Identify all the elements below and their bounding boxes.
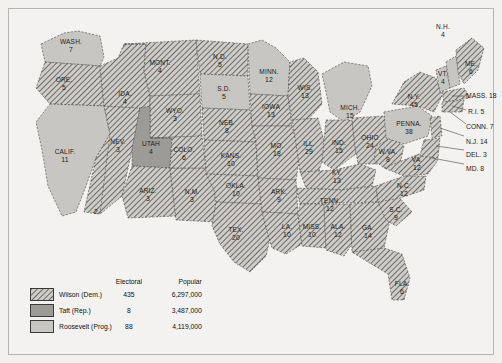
- legend-header-party: [59, 276, 112, 286]
- legend-header-electoral: Electoral: [112, 276, 146, 286]
- callout-label-conn: CONN. 7: [466, 123, 494, 130]
- state-mo: [252, 126, 300, 180]
- solid-light-swatch-icon: [30, 320, 54, 333]
- map-legend: Electoral Popular Wilson (Dem.) 435 6,29…: [30, 276, 202, 334]
- legend-row-taft: Taft (Rep.) 8 3,487,000: [30, 302, 202, 318]
- state-fla: [352, 248, 410, 300]
- legend-electoral-taft: 8: [112, 302, 146, 318]
- state-ind: [322, 120, 356, 170]
- callout-label-mass: MASS. 18: [466, 92, 497, 99]
- state-nc: [376, 176, 426, 202]
- callout-label-ri: R.I. 5: [468, 108, 484, 115]
- state-wyo: [150, 94, 202, 138]
- state-ark: [258, 178, 298, 214]
- hatch-swatch-icon: [30, 288, 54, 301]
- state-del-md: [420, 138, 440, 158]
- legend-row-wilson: Wilson (Dem.) 435 6,297,000: [30, 286, 202, 302]
- legend-swatch-taft-cell: [30, 302, 59, 318]
- state-wash: [41, 31, 104, 66]
- state-shapes: [36, 31, 484, 300]
- state-neb: [202, 108, 256, 142]
- legend-label-taft: Taft (Rep.): [59, 302, 112, 318]
- callout-label-del: DEL. 3: [466, 151, 487, 158]
- state-iowa: [250, 94, 292, 126]
- state-ala: [324, 204, 352, 256]
- legend-row-roosevelt: Roosevelt (Prog.) 88 4,119,000: [30, 318, 202, 334]
- legend-swatch-wilson-cell: [30, 286, 59, 302]
- legend-swatch-roosevelt-cell: [30, 318, 59, 334]
- legend-electoral-roosevelt: 88: [112, 318, 146, 334]
- legend-label-roosevelt: Roosevelt (Prog.): [59, 318, 112, 334]
- state-nj: [430, 116, 442, 138]
- state-sd: [200, 74, 250, 110]
- legend-popular-wilson: 6,297,000: [146, 286, 202, 302]
- state-kans: [204, 140, 258, 176]
- callout-label-md: MD. 8: [466, 165, 484, 172]
- state-minn: [248, 40, 290, 96]
- legend-header-swatch: [30, 276, 59, 286]
- state-ariz: [122, 166, 176, 218]
- legend-label-wilson: Wilson (Dem.): [59, 286, 112, 302]
- state-mich: [322, 62, 372, 122]
- state-miss: [298, 204, 326, 248]
- legend-popular-taft: 3,487,000: [146, 302, 202, 318]
- state-ore: [36, 62, 104, 106]
- state-ny: [392, 72, 442, 112]
- legend-header-popular: Popular: [146, 276, 202, 286]
- state-me: [456, 38, 484, 84]
- state-penna: [384, 106, 432, 144]
- legend-header-row: Electoral Popular: [30, 276, 202, 286]
- state-nd: [196, 40, 248, 76]
- legend-table: Electoral Popular Wilson (Dem.) 435 6,29…: [30, 276, 202, 334]
- legend-popular-roosevelt: 4,119,000: [146, 318, 202, 334]
- election-map-figure: WASH.7 ORE.5 CALIF.11 2 NEV.3 IDA.4 MONT…: [0, 0, 502, 363]
- legend-electoral-wilson: 435: [112, 286, 146, 302]
- state-wis: [288, 58, 322, 122]
- solid-dark-swatch-icon: [30, 304, 54, 317]
- callout-label-nj: N.J. 14: [466, 138, 488, 145]
